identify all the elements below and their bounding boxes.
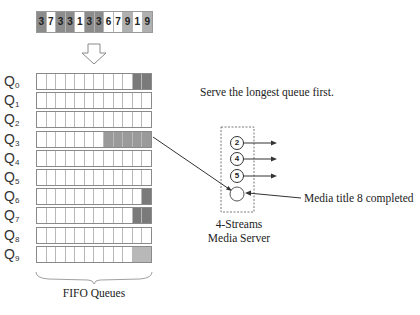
stream-5-circle: 5 bbox=[230, 169, 244, 183]
stream-2-circle: 2 bbox=[230, 136, 244, 150]
server-caption-line2: Media Server bbox=[204, 232, 274, 244]
fifo-queue-diagram: 373313367919 Q0Q1Q2Q3Q4Q5Q6Q7Q8Q9 bbox=[0, 0, 420, 315]
stream-arrows bbox=[243, 143, 274, 176]
completion-label: Media title 8 completed bbox=[304, 192, 414, 204]
diagram-lines bbox=[0, 0, 420, 315]
empty-stream-slot bbox=[230, 187, 244, 201]
server-caption-line1: 4-Streams bbox=[213, 218, 265, 230]
down-arrow-icon bbox=[82, 44, 106, 64]
completion-line bbox=[248, 193, 301, 198]
q3-to-server-line bbox=[153, 137, 232, 191]
fifo-brace bbox=[36, 272, 152, 284]
fifo-queues-caption: FIFO Queues bbox=[58, 287, 130, 299]
stream-4-circle: 4 bbox=[230, 152, 244, 166]
policy-text: Serve the longest queue first. bbox=[200, 86, 334, 98]
